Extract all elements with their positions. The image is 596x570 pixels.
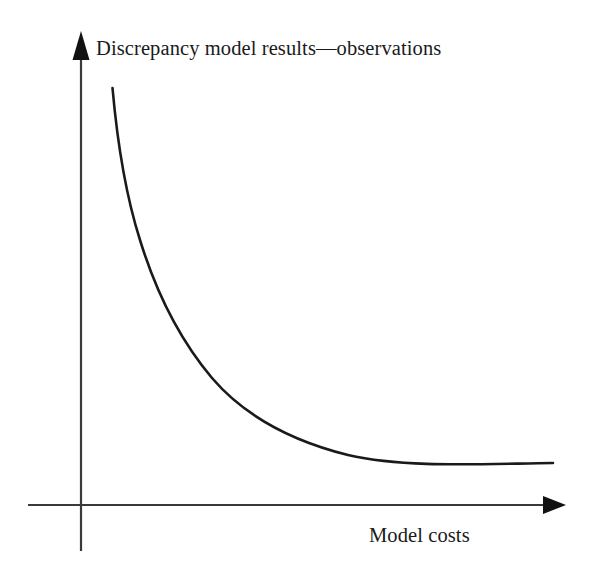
- x-axis-title: Model costs: [369, 523, 470, 547]
- discrepancy-vs-model-costs-figure: Discrepancy model results—observations M…: [0, 0, 596, 570]
- arrow-up-icon: [73, 31, 90, 60]
- plot-area: [0, 0, 596, 570]
- arrow-right-icon: [543, 496, 566, 514]
- y-axis-title: Discrepancy model results—observations: [96, 36, 441, 60]
- discrepancy-curve: [113, 88, 554, 464]
